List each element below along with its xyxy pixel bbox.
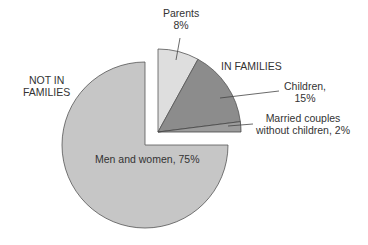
label-children: Children, 15% [284,80,326,104]
label-parents-value: 8% [163,19,199,31]
label-not-in-families-line1: NOT IN [23,74,70,86]
label-parents-name: Parents [163,7,199,19]
label-married-couples: Married couples without children, 2% [256,112,350,136]
label-not-in-families: NOT IN FAMILIES [23,74,70,98]
label-married-value: without children, 2% [256,124,350,136]
label-in-families: IN FAMILIES [221,60,282,72]
label-children-value: 15% [284,92,326,104]
label-parents: Parents 8% [163,7,199,31]
label-not-in-families-line2: FAMILIES [23,86,70,98]
label-married-name: Married couples [256,112,350,124]
label-men-and-women: Men and women, 75% [95,153,199,165]
label-children-name: Children, [284,80,326,92]
